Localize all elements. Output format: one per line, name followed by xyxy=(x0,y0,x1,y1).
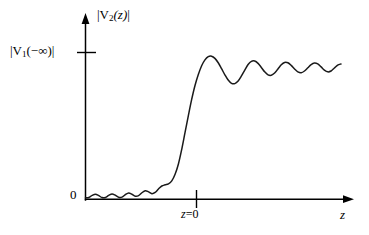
x-axis-tick-label-value: =0 xyxy=(186,207,199,221)
x-axis-tick-label: z=0 xyxy=(181,208,198,220)
origin-label: 0 xyxy=(70,188,77,201)
y-axis-arrowhead xyxy=(82,13,90,24)
y-axis-title-pre: |V xyxy=(97,7,109,22)
plot-canvas xyxy=(0,0,369,235)
figure-root: |V2(z)| |V1(−∞)| 0 z=0 z xyxy=(0,0,369,235)
y-axis-tick-label: |V1(−∞)| xyxy=(10,44,54,59)
y-axis-title-post: (z)| xyxy=(114,7,130,22)
y-axis-tick-label-post: (−∞)| xyxy=(27,43,55,58)
x-axis-arrowhead xyxy=(343,195,354,203)
y-axis-tick-label-pre: |V xyxy=(10,43,22,58)
data-curve xyxy=(86,56,342,198)
y-axis-title: |V2(z)| xyxy=(97,8,130,23)
x-axis-label: z xyxy=(340,208,345,221)
